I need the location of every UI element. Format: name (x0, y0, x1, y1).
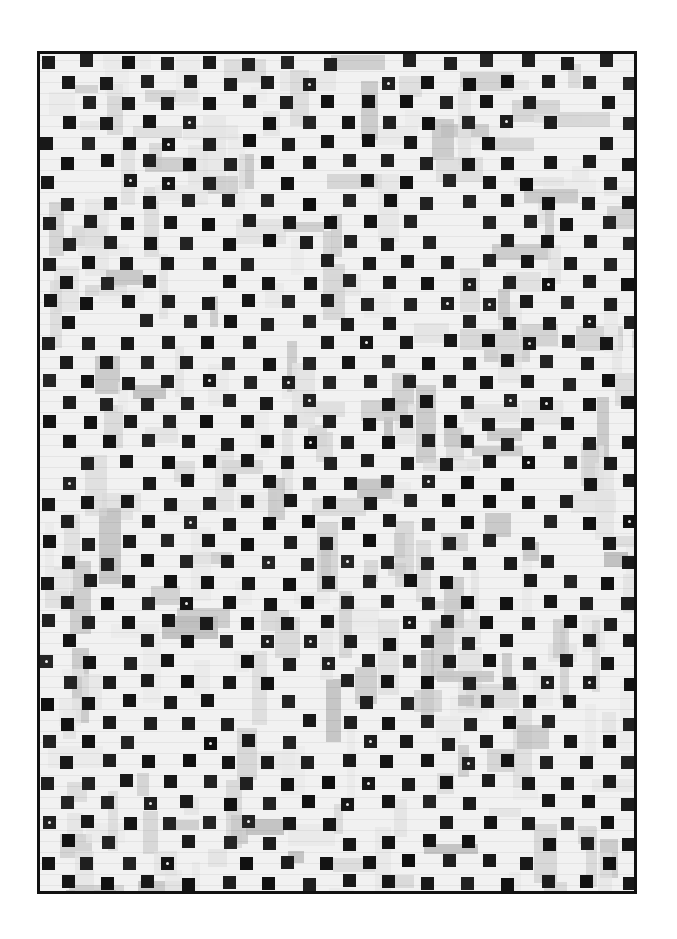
fabric-patch (133, 126, 182, 138)
black-square (162, 177, 175, 190)
black-square (503, 716, 516, 729)
black-square (42, 337, 55, 350)
black-square (200, 415, 213, 428)
black-square (62, 556, 75, 569)
black-square (583, 398, 596, 411)
black-square (301, 756, 314, 769)
black-square (283, 578, 296, 591)
black-square (361, 298, 374, 311)
black-square (420, 395, 433, 408)
black-square (383, 638, 396, 651)
black-square (463, 78, 476, 91)
black-square (122, 56, 135, 69)
black-square (540, 355, 553, 368)
quilting-line (40, 610, 634, 611)
black-square (43, 415, 56, 428)
black-square (482, 334, 495, 347)
black-square (362, 95, 375, 108)
black-square (221, 718, 234, 731)
black-square (583, 315, 596, 328)
black-square (61, 796, 74, 809)
black-square (101, 796, 114, 809)
black-square (403, 616, 416, 629)
black-square (122, 97, 135, 110)
black-square (440, 458, 453, 471)
black-square (421, 877, 434, 890)
black-square (421, 277, 434, 290)
black-square (483, 534, 496, 547)
black-square (182, 435, 195, 448)
fabric-patch (143, 811, 158, 854)
black-square (303, 78, 316, 91)
black-square (242, 734, 255, 747)
black-square (524, 215, 537, 228)
black-square (61, 596, 74, 609)
black-square (422, 518, 435, 531)
black-square (82, 337, 95, 350)
black-square (363, 534, 376, 547)
black-square (141, 634, 154, 647)
quilting-line (40, 709, 634, 710)
black-square (522, 537, 535, 550)
black-square (421, 715, 434, 728)
black-square (341, 436, 354, 449)
black-square (321, 95, 334, 108)
black-square (181, 675, 194, 688)
black-square (483, 854, 496, 867)
black-square (601, 816, 614, 829)
black-square (242, 294, 255, 307)
black-square (81, 815, 94, 828)
quilting-line (40, 643, 634, 644)
quilting-line (40, 533, 634, 534)
black-square (544, 116, 557, 129)
fabric-patch (326, 679, 341, 742)
black-square (623, 877, 636, 890)
black-square (443, 655, 456, 668)
black-square (204, 775, 217, 788)
black-square (463, 677, 476, 690)
black-square (220, 635, 233, 648)
black-square (501, 354, 514, 367)
black-square (580, 597, 593, 610)
black-square (263, 358, 276, 371)
black-square (240, 857, 253, 870)
black-square (143, 154, 156, 167)
black-square (623, 237, 636, 250)
black-square (63, 116, 76, 129)
black-square (284, 415, 297, 428)
black-square (322, 776, 335, 789)
black-square (284, 536, 297, 549)
black-square (241, 415, 254, 428)
black-square (440, 816, 453, 829)
black-square (141, 554, 154, 567)
black-square (363, 856, 376, 869)
black-square (522, 817, 535, 830)
black-square (180, 555, 193, 568)
black-square (120, 774, 133, 787)
black-square (142, 515, 155, 528)
black-square (583, 676, 596, 689)
black-square (43, 258, 56, 271)
fabric-patch (378, 174, 398, 241)
black-square (423, 834, 436, 847)
black-square (501, 478, 514, 491)
black-square (483, 254, 496, 267)
black-square (224, 798, 237, 811)
black-square (240, 777, 253, 790)
black-square (303, 156, 316, 169)
black-square (43, 217, 56, 230)
black-square (101, 597, 114, 610)
black-square (83, 656, 96, 669)
black-square (63, 238, 76, 251)
black-square (564, 735, 577, 748)
black-square (321, 294, 334, 307)
black-square (203, 56, 216, 69)
black-square (583, 634, 596, 647)
black-square (461, 435, 474, 448)
black-square (621, 597, 634, 610)
black-square (343, 154, 356, 167)
black-square (484, 816, 497, 829)
fabric-patch (331, 55, 385, 70)
black-square (124, 415, 137, 428)
black-square (123, 137, 136, 150)
